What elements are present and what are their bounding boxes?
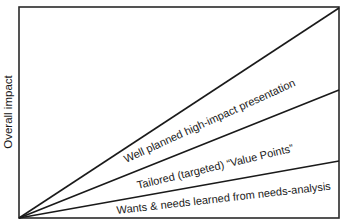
impact-diagram: Overall impact Well planned high-impact … bbox=[0, 0, 341, 222]
y-axis-label: Overall impact bbox=[2, 74, 14, 148]
